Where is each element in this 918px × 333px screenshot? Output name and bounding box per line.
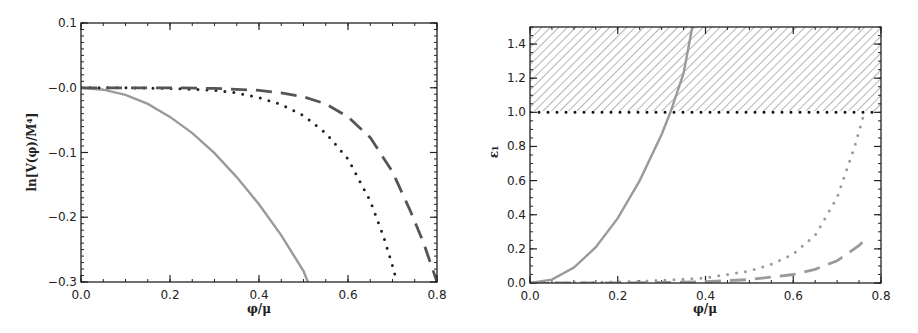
- x-tick-label: 0.0: [71, 288, 90, 302]
- y-tick-label: 0.1: [58, 16, 77, 30]
- series-solid: [81, 88, 308, 282]
- x-tick-label: 0.8: [871, 289, 890, 303]
- right-panel: 0.00.20.40.60.80.00.20.40.60.81.01.21.4 …: [487, 27, 891, 316]
- y-tick-label: −0.1: [48, 146, 77, 160]
- y-tick-label: 0.2: [507, 242, 526, 256]
- right-y-axis-label: ε₁: [487, 146, 501, 159]
- y-tick-label: −0.2: [48, 210, 77, 224]
- left-series: [81, 88, 437, 282]
- left-x-axis-label: φ/μ: [247, 302, 271, 316]
- x-tick-label: 0.6: [784, 289, 803, 303]
- series-dashed: [81, 88, 437, 282]
- figure: 0.00.20.40.60.80.1−0.0−0.1−0.2−0.3 φ/μ l…: [0, 0, 918, 333]
- x-tick-label: 0.0: [520, 289, 539, 303]
- y-tick-label: 1.4: [507, 37, 526, 51]
- left-panel: 0.00.20.40.60.80.1−0.0−0.1−0.2−0.3 φ/μ l…: [25, 16, 447, 316]
- y-tick-label: 0.6: [507, 174, 526, 188]
- y-tick-label: 1.2: [507, 71, 526, 85]
- series-dotted: [530, 116, 864, 283]
- x-tick-label: 0.2: [608, 289, 627, 303]
- left-tick-labels: 0.00.20.40.60.80.1−0.0−0.1−0.2−0.3: [48, 16, 447, 302]
- left-y-axis-label: ln[V(φ)/M⁴]: [25, 112, 39, 191]
- x-tick-label: 0.4: [696, 289, 715, 303]
- left-axis-ticks: [81, 23, 437, 282]
- y-tick-label: 0.0: [507, 276, 526, 290]
- hatched-region: [530, 27, 881, 111]
- y-tick-label: −0.3: [48, 275, 77, 289]
- series-dotted: [81, 88, 397, 282]
- x-tick-label: 0.4: [249, 288, 268, 302]
- x-tick-label: 0.6: [338, 288, 357, 302]
- x-tick-label: 0.8: [427, 288, 446, 302]
- y-tick-label: −0.0: [48, 81, 77, 95]
- left-plot-frame: [81, 23, 437, 282]
- y-tick-label: 0.4: [507, 208, 526, 222]
- y-tick-label: 1.0: [507, 105, 526, 119]
- x-tick-label: 0.2: [160, 288, 179, 302]
- right-x-axis-label: φ/μ: [693, 302, 717, 316]
- y-tick-label: 0.8: [507, 139, 526, 153]
